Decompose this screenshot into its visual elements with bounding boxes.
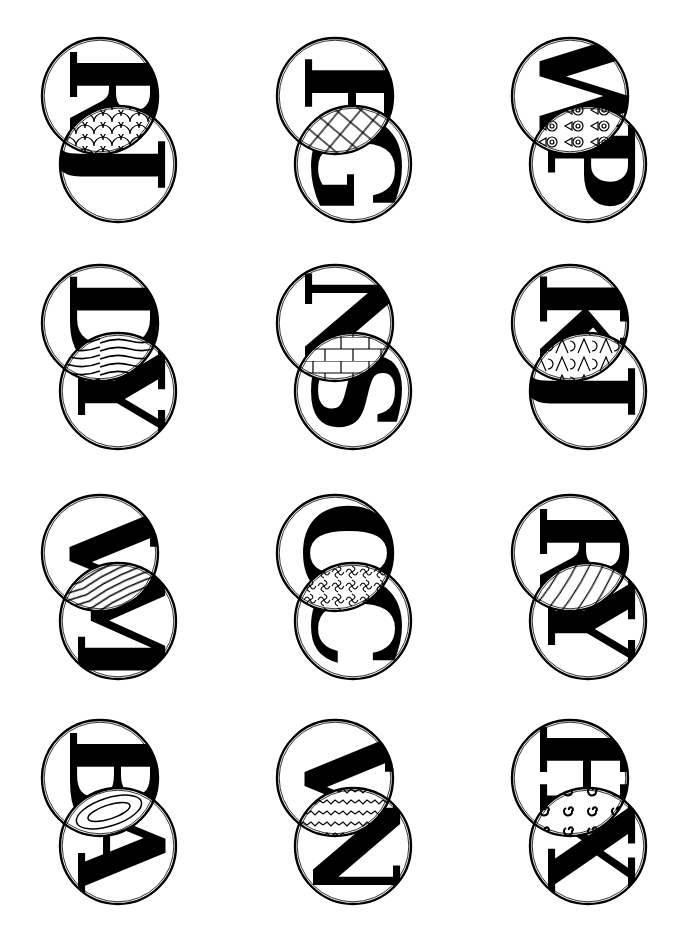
monogram-n-s: N S — [275, 265, 425, 455]
monogram-grid: R J F G — [0, 0, 690, 943]
monogram-o-c: O C — [275, 495, 425, 685]
monogram-v-n: V N — [275, 720, 425, 910]
monogram-v-m: V M — [40, 495, 190, 685]
monogram-f-g: F G — [275, 38, 425, 228]
monogram-w-p: W P — [510, 38, 660, 228]
monogram-r-y: R Y — [510, 495, 660, 685]
monogram-h-x: H X — [510, 720, 660, 910]
monogram-b-a: B A — [40, 720, 190, 910]
monogram-d-y: D Y — [40, 265, 190, 455]
monogram-r-j: R J — [40, 38, 190, 228]
monogram-k-j: K J — [510, 265, 660, 455]
